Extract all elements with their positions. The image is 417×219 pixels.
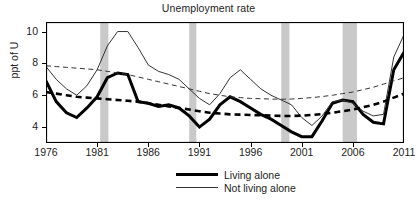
x-tick-mark-1996 xyxy=(251,143,252,147)
x-tick-mark-2006 xyxy=(353,143,354,147)
legend-swatch-living-alone xyxy=(176,173,218,176)
x-tick-mark-2001 xyxy=(302,143,303,147)
legend-item-living-alone: Living alone xyxy=(176,168,296,181)
legend-item-not-living-alone: Not living alone xyxy=(176,181,296,194)
plot-area xyxy=(46,22,404,143)
x-tick-label-1976: 1976 xyxy=(26,146,66,158)
x-tick-label-2006: 2006 xyxy=(333,146,373,158)
y-tick-label-6: 6 xyxy=(14,88,38,100)
x-tick-label-1991: 1991 xyxy=(179,146,219,158)
shaded-band-recession-2 xyxy=(189,22,196,143)
x-tick-mark-1981 xyxy=(97,143,98,147)
x-tick-label-1996: 1996 xyxy=(231,146,271,158)
x-tick-label-2001: 2001 xyxy=(282,146,322,158)
x-tick-mark-1986 xyxy=(148,143,149,147)
y-tick-label-10: 10 xyxy=(14,25,38,37)
x-tick-label-1986: 1986 xyxy=(128,146,168,158)
legend-label-not-living-alone: Not living alone xyxy=(224,182,296,194)
legend-swatch-not-living-alone xyxy=(176,187,218,188)
x-tick-label-2011: 2011 xyxy=(384,146,417,158)
x-tick-label-1981: 1981 xyxy=(77,146,117,158)
plot-svg xyxy=(46,22,404,143)
chart-title: Unemployment rate xyxy=(0,2,417,14)
shaded-band-recession-4 xyxy=(343,22,357,143)
chart-container: Unemployment rate ppt of U 46810 1976198… xyxy=(0,0,417,219)
legend-label-living-alone: Living alone xyxy=(224,169,280,181)
x-tick-mark-1991 xyxy=(199,143,200,147)
y-tick-label-8: 8 xyxy=(14,56,38,68)
chart-legend: Living alone Not living alone xyxy=(176,168,296,194)
y-tick-label-4: 4 xyxy=(14,120,38,132)
